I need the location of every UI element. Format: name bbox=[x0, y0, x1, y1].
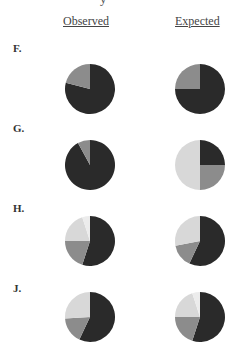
pie-slice bbox=[175, 140, 200, 190]
row-label-h: H. bbox=[13, 202, 24, 214]
pie-slice bbox=[200, 165, 225, 190]
row-label-f: F. bbox=[13, 42, 21, 54]
pie-g-observed bbox=[64, 139, 116, 191]
row-label-j: J. bbox=[13, 282, 21, 294]
pie-g-expected bbox=[174, 139, 226, 191]
pie-h-expected bbox=[174, 215, 226, 267]
row-label-g: G. bbox=[13, 122, 24, 134]
pie-f-observed bbox=[64, 63, 116, 115]
pie-j-observed bbox=[64, 291, 116, 343]
pie-slice bbox=[175, 64, 200, 89]
pie-slice bbox=[175, 216, 200, 246]
pie-slice bbox=[200, 140, 225, 165]
pie-j-expected bbox=[174, 291, 226, 343]
column-header-observed: Observed bbox=[63, 14, 109, 29]
pie-f-expected bbox=[174, 63, 226, 115]
pie-slice bbox=[65, 292, 90, 319]
clipped-title-glyph: y bbox=[100, 0, 107, 7]
column-header-expected: Expected bbox=[175, 14, 220, 29]
pie-h-observed bbox=[64, 215, 116, 267]
